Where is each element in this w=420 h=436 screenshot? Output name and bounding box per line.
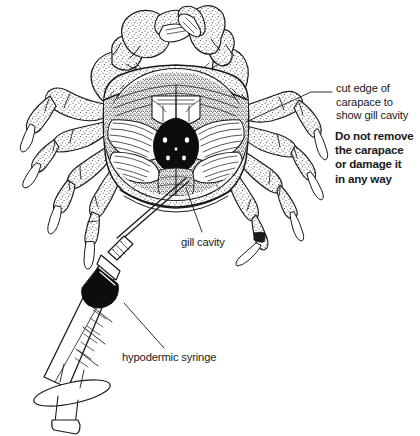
figure-container: cut edge of carapace to show gill cavity… xyxy=(0,0,420,436)
leader-hypodermic-syringe xyxy=(124,303,164,348)
label-gill-cavity: gill cavity xyxy=(181,236,225,250)
label-hypodermic-syringe: hypodermic syringe xyxy=(122,351,216,365)
label-cut-edge-of-carapace: cut edge of carapace to show gill cavity xyxy=(336,82,408,123)
label-do-not-remove-carapace-warning: Do not remove the carapace or damage it … xyxy=(335,129,414,186)
crab-syringe-illustration xyxy=(0,0,420,436)
